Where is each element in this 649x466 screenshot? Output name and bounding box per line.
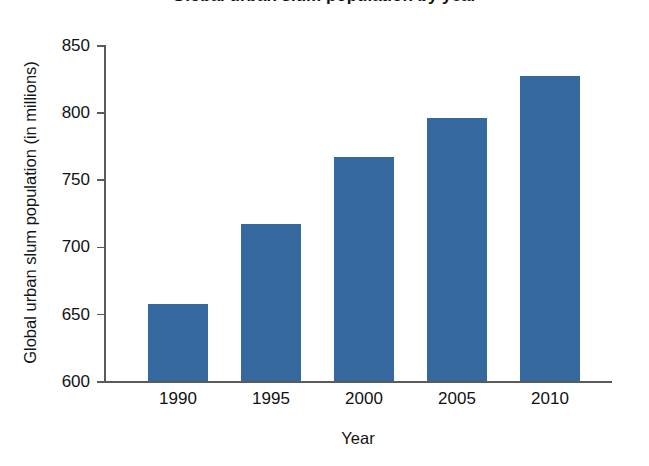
x-axis-tick-label: 2005	[417, 389, 497, 409]
bar-chart-figure: Global urban slum population by year Glo…	[0, 0, 649, 466]
y-axis-title: Global urban slum population (in million…	[21, 33, 40, 393]
bar-2010[interactable]	[520, 76, 580, 381]
x-axis-tick-label: 1995	[231, 389, 311, 409]
bar-2005[interactable]	[427, 118, 487, 381]
x-axis-line	[104, 381, 612, 383]
y-axis-tick: 700	[97, 247, 104, 249]
y-axis-tick-label: 650	[62, 305, 90, 325]
y-axis-tick-label: 600	[62, 372, 90, 392]
y-axis-tick: 600	[97, 381, 104, 383]
y-axis-tick: 850	[97, 45, 104, 47]
y-axis-line	[104, 45, 106, 382]
chart-title: Global urban slum population by year	[0, 0, 649, 9]
x-axis-title: Year	[104, 429, 612, 448]
y-axis-tick-label: 750	[62, 170, 90, 190]
bar-1995[interactable]	[241, 224, 301, 381]
bar-2000[interactable]	[334, 157, 394, 381]
chart-title-clipped-strip: Global urban slum population by year	[0, 0, 649, 9]
y-axis-tick-label: 700	[62, 237, 90, 257]
y-axis-tick-label: 850	[62, 36, 90, 56]
y-axis-tick: 750	[97, 179, 104, 181]
x-axis-tick-label: 2010	[510, 389, 590, 409]
y-axis-tick: 800	[97, 112, 104, 114]
bar-1990[interactable]	[148, 304, 208, 381]
x-axis-tick-label: 2000	[324, 389, 404, 409]
y-axis-tick-label: 800	[62, 103, 90, 123]
plot-area: 850 800 750 700 650 600 1990 1995 2000 2…	[104, 45, 612, 382]
x-axis-tick-label: 1990	[138, 389, 218, 409]
y-axis-tick: 650	[97, 314, 104, 316]
